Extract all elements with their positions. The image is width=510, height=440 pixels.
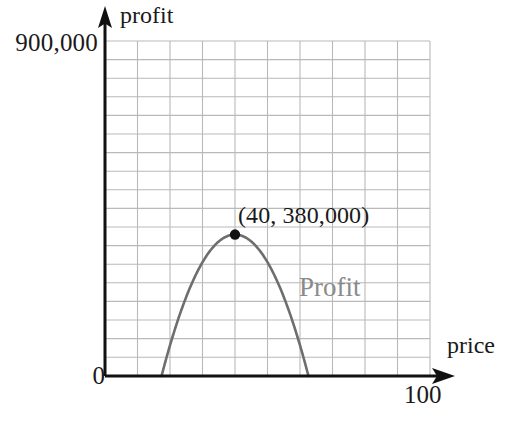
vertex-point	[230, 229, 240, 239]
y-axis-max-tick-label: 900,000	[15, 30, 98, 55]
y-axis-title: profit	[120, 3, 173, 27]
x-axis-title: price	[447, 333, 495, 357]
axis-origin-label: 0	[93, 363, 106, 388]
vertex-annotation-label: (40, 380,000)	[238, 203, 369, 227]
curve-series-label: Profit	[299, 274, 361, 301]
chart-figure: 900,000 0 profit price 100 (40, 380,000)…	[0, 0, 510, 440]
x-axis-max-tick-label: 100	[404, 382, 442, 407]
